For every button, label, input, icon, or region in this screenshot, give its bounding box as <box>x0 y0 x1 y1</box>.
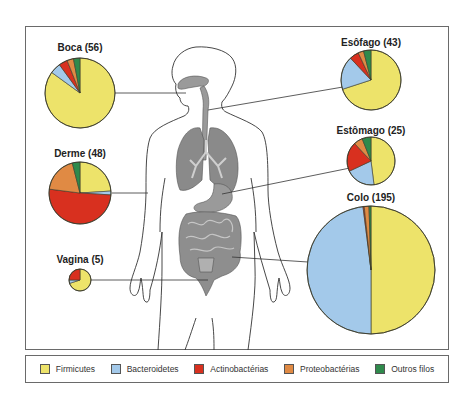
pie-title: Vagina (5) <box>56 254 103 265</box>
stomach <box>194 184 232 213</box>
pie-derme: Derme (48) <box>49 148 111 224</box>
legend-label: Proteobactérias <box>300 364 360 374</box>
legend-swatch-outros <box>375 364 385 374</box>
legend-label: Firmicutes <box>56 364 95 374</box>
inner-arm-right <box>251 178 256 232</box>
pie-title: Estômago (25) <box>337 125 406 136</box>
legend-item-proteobacterias: Proteobactérias <box>284 364 360 374</box>
leg-inner-right <box>212 318 214 350</box>
legend-swatch-proteobacterias <box>284 364 294 374</box>
pie-colo: Colo (195) <box>307 192 435 334</box>
organs <box>176 76 241 296</box>
pie-esofago: Esôfago (43) <box>341 37 401 110</box>
pie-slice-bacteroidetes <box>307 207 371 334</box>
pie-slice-firmicutes <box>371 137 395 185</box>
inner-arm-left <box>160 178 165 232</box>
pie-charts: Boca (56)Esôfago (43)Estômago (25)Derme … <box>45 37 435 334</box>
pie-title: Boca (56) <box>57 42 102 53</box>
leader-colo <box>232 257 308 262</box>
legend-item-firmicutes: Firmicutes <box>40 364 95 374</box>
legend-swatch-bacteroidetes <box>111 364 121 374</box>
legend-item-actinobacterias: Actinobactérias <box>194 364 268 374</box>
microbiome-diagram: Boca (56)Esôfago (43)Estômago (25)Derme … <box>0 0 470 401</box>
pie-title: Derme (48) <box>54 148 106 159</box>
leader-esofago <box>208 87 343 110</box>
pie-title: Colo (195) <box>347 192 395 203</box>
leader-estomago <box>222 168 350 194</box>
pie-estomago: Estômago (25) <box>337 125 406 185</box>
legend-swatch-actinobacterias <box>194 364 204 374</box>
legend-item-outros: Outros filos <box>375 364 434 374</box>
pie-slice-actinobacterias <box>49 189 111 224</box>
pie-title: Esôfago (43) <box>341 37 401 48</box>
legend: Firmicutes Bacteroidetes Actinobactérias… <box>25 355 449 383</box>
legend-label: Bacteroidetes <box>127 364 179 374</box>
legend-item-bacteroidetes: Bacteroidetes <box>111 364 179 374</box>
legend-label: Outros filos <box>391 364 434 374</box>
leg-inner-left <box>185 318 196 350</box>
bladder-area <box>198 258 214 272</box>
pie-vagina: Vagina (5) <box>56 254 103 291</box>
legend-swatch-firmicutes <box>40 364 50 374</box>
legend-label: Actinobactérias <box>210 364 268 374</box>
pie-boca: Boca (56) <box>45 42 115 128</box>
pie-slice-firmicutes <box>371 206 435 334</box>
